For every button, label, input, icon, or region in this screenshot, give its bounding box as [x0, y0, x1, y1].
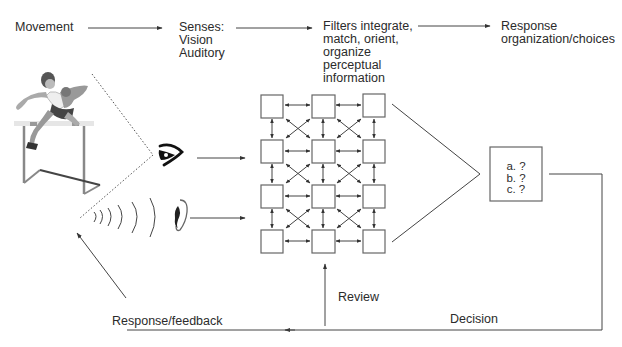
- label-response-organization: Response organization/choices: [501, 20, 615, 46]
- top-flow-arrows: [88, 26, 490, 28]
- decision-option-c: c. ?: [490, 184, 542, 196]
- label-review: Review: [338, 291, 379, 304]
- feedback-arrow: [77, 233, 126, 298]
- label-decision: Decision: [450, 313, 498, 326]
- decision-option-a: a. ?: [490, 161, 542, 173]
- converging-lines: [392, 104, 480, 242]
- vertical-links: [272, 119, 374, 228]
- label-senses: Senses: Vision Auditory: [179, 21, 225, 60]
- filter-network-grid: [261, 94, 385, 253]
- perception-decision-diagram: Movement Senses: Vision Auditory Filters…: [0, 0, 622, 347]
- decision-options: a. ? b. ? c. ?: [490, 161, 542, 196]
- label-response-feedback: Response/feedback: [112, 315, 223, 328]
- hurdler-illustration: [14, 72, 100, 194]
- eye-icon: [159, 145, 182, 165]
- label-filters: Filters integrate, match, orient, organi…: [323, 20, 413, 85]
- label-movement: Movement: [15, 21, 73, 34]
- vision-cone-lines: [80, 74, 153, 218]
- sound-waves-icon: [94, 198, 155, 237]
- ear-icon: [175, 200, 187, 231]
